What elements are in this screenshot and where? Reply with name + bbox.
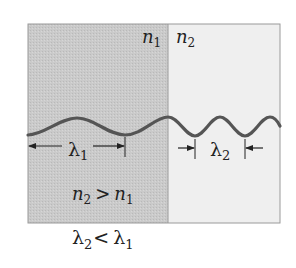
medium-2-region bbox=[168, 24, 280, 223]
index-condition-label: n2>n1 bbox=[72, 183, 134, 207]
refraction-diagram: λ1 λ2 n1 n2 n2>n1 λ2<λ1 bbox=[0, 0, 296, 268]
wavelength-result-label: λ2<λ1 bbox=[72, 226, 134, 252]
